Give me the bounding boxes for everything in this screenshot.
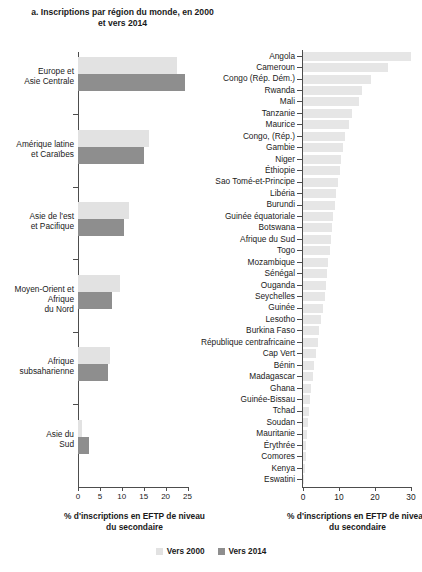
bar bbox=[303, 178, 338, 187]
y-tick bbox=[297, 330, 302, 331]
legend-label: Vers 2014 bbox=[229, 547, 267, 556]
x-tick-label: 0 bbox=[292, 492, 314, 502]
y-tick bbox=[297, 250, 302, 251]
y-tick bbox=[297, 113, 302, 114]
bar bbox=[303, 475, 304, 484]
x-tick bbox=[339, 487, 340, 491]
y-tick bbox=[297, 296, 302, 297]
x-tick bbox=[375, 487, 376, 491]
bar bbox=[303, 418, 308, 427]
panel-a-x-axis bbox=[78, 487, 188, 488]
y-tick bbox=[297, 147, 302, 148]
bar bbox=[303, 52, 411, 61]
x-tick bbox=[188, 487, 189, 491]
legend-swatch bbox=[218, 548, 225, 555]
y-tick bbox=[297, 319, 302, 320]
bar bbox=[303, 407, 309, 416]
bar bbox=[303, 338, 318, 347]
bar bbox=[303, 395, 310, 404]
x-tick bbox=[122, 487, 123, 491]
y-tick bbox=[297, 227, 302, 228]
figure-root: a. Inscriptions par région du monde, en … bbox=[0, 0, 422, 572]
y-tick bbox=[297, 159, 302, 160]
y-tick bbox=[297, 353, 302, 354]
x-tick bbox=[166, 487, 167, 491]
bar bbox=[303, 189, 336, 198]
bar bbox=[303, 86, 362, 95]
bar bbox=[303, 315, 321, 324]
y-tick bbox=[297, 376, 302, 377]
bar bbox=[303, 132, 345, 141]
bar bbox=[303, 441, 306, 450]
bar bbox=[303, 246, 330, 255]
y-tick bbox=[297, 182, 302, 183]
x-tick-label: 20 bbox=[364, 492, 386, 502]
bar bbox=[303, 349, 316, 358]
y-tick bbox=[297, 456, 302, 457]
x-tick bbox=[78, 487, 79, 491]
bar bbox=[303, 384, 311, 393]
x-tick-label: 20 bbox=[156, 492, 176, 501]
y-tick bbox=[297, 342, 302, 343]
y-tick bbox=[297, 193, 302, 194]
y-tick bbox=[297, 422, 302, 423]
bar bbox=[303, 281, 326, 290]
panel-a-x-axis-label: % d'inscriptions en EFTP de niveau du se… bbox=[62, 511, 207, 533]
panel-b-x-axis bbox=[302, 487, 411, 488]
x-tick bbox=[144, 487, 145, 491]
bar bbox=[303, 304, 323, 313]
bar bbox=[303, 464, 305, 473]
panel-a-title: a. Inscriptions par région du monde, en … bbox=[30, 7, 215, 29]
y-tick bbox=[297, 479, 302, 480]
bar bbox=[303, 166, 340, 175]
bar bbox=[303, 63, 388, 72]
legend: Vers 2000Vers 2014 bbox=[0, 547, 422, 556]
x-tick-label: 0 bbox=[68, 492, 88, 501]
x-tick-label: 10 bbox=[112, 492, 132, 501]
bar bbox=[303, 292, 325, 301]
x-tick-label: 5 bbox=[90, 492, 110, 501]
y-tick bbox=[297, 101, 302, 102]
y-tick bbox=[297, 308, 302, 309]
y-tick bbox=[297, 90, 302, 91]
y-tick bbox=[297, 170, 302, 171]
legend-swatch bbox=[156, 548, 163, 555]
country-row: Eswatini bbox=[0, 473, 422, 486]
bar bbox=[303, 109, 352, 118]
y-tick bbox=[297, 365, 302, 366]
y-tick bbox=[297, 273, 302, 274]
bar bbox=[303, 326, 319, 335]
bar bbox=[303, 120, 349, 129]
bar bbox=[303, 155, 341, 164]
x-tick bbox=[100, 487, 101, 491]
bar bbox=[303, 223, 332, 232]
y-tick bbox=[297, 468, 302, 469]
y-tick bbox=[297, 136, 302, 137]
legend-item: Vers 2014 bbox=[218, 547, 267, 556]
bar bbox=[303, 212, 333, 221]
bar bbox=[303, 75, 371, 84]
y-tick bbox=[297, 445, 302, 446]
y-tick bbox=[297, 399, 302, 400]
y-tick bbox=[297, 56, 302, 57]
y-tick bbox=[297, 79, 302, 80]
legend-label: Vers 2000 bbox=[167, 547, 205, 556]
x-tick-label: 25 bbox=[178, 492, 198, 501]
panel-b-x-axis-label: % d'inscriptions en EFTP de niveau du se… bbox=[286, 511, 422, 533]
y-tick bbox=[297, 411, 302, 412]
bar bbox=[303, 258, 328, 267]
x-tick bbox=[411, 487, 412, 491]
x-tick-label: 10 bbox=[328, 492, 350, 502]
legend-item: Vers 2000 bbox=[156, 547, 205, 556]
y-tick bbox=[297, 67, 302, 68]
y-tick bbox=[297, 388, 302, 389]
x-tick bbox=[303, 487, 304, 491]
y-tick bbox=[297, 216, 302, 217]
y-tick bbox=[297, 285, 302, 286]
y-tick bbox=[297, 262, 302, 263]
y-tick bbox=[297, 434, 302, 435]
bar bbox=[303, 361, 314, 370]
bar bbox=[303, 97, 359, 106]
bar bbox=[303, 201, 335, 210]
bar bbox=[303, 430, 307, 439]
